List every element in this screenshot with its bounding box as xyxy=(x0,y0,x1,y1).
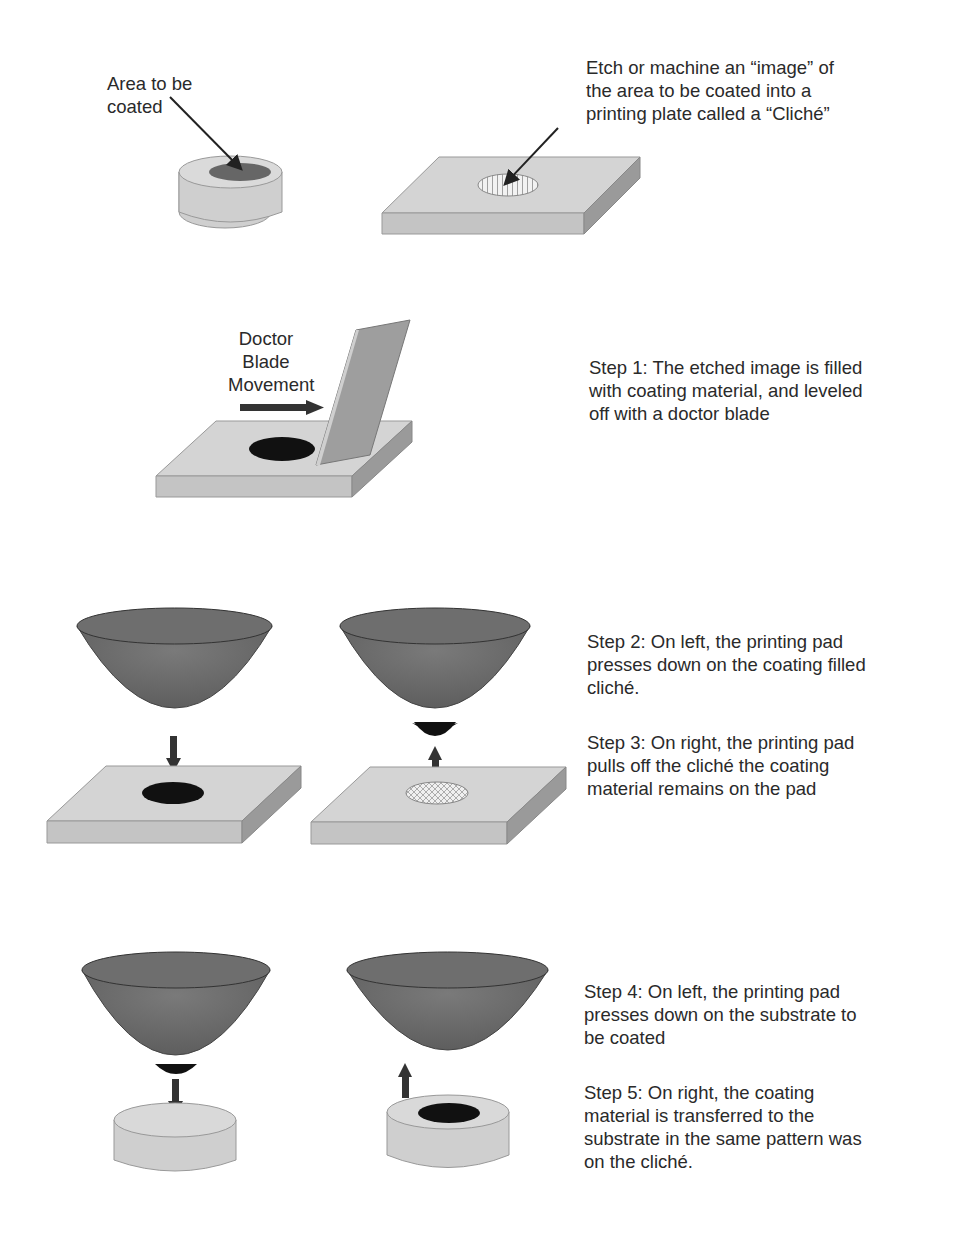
coating-fill xyxy=(142,782,204,804)
label-etch-caption: Etch or machine an “image” of the area t… xyxy=(586,56,834,125)
empty-image xyxy=(406,782,468,804)
substrate-disk-uncoated xyxy=(179,156,282,228)
step-3-text: Step 3: On right, the printing pad pulls… xyxy=(587,731,854,800)
cliche-plate-etched xyxy=(382,157,640,234)
printing-pad-step3 xyxy=(340,608,530,736)
etched-image xyxy=(478,174,538,196)
step-4-text: Step 4: On left, the printing pad presse… xyxy=(584,980,857,1049)
step-2-text: Step 2: On left, the printing pad presse… xyxy=(587,630,866,699)
pad-printing-diagram xyxy=(0,0,962,1237)
printing-pad-step2 xyxy=(77,608,272,708)
label-doctor-blade: Doctor Blade Movement xyxy=(228,327,304,396)
step-5-text: Step 5: On right, the coating material i… xyxy=(584,1081,862,1173)
pad-coating xyxy=(414,722,456,736)
transferred-coating xyxy=(418,1103,480,1123)
substrate-disk-coated xyxy=(387,1095,509,1168)
printing-pad-step4 xyxy=(82,952,270,1074)
printing-pad-step5 xyxy=(347,952,548,1050)
blade-movement-arrow xyxy=(240,400,324,415)
coating-area xyxy=(209,163,271,181)
up-arrow xyxy=(398,1063,412,1098)
cliche-plate-step2 xyxy=(47,766,301,843)
label-area-to-be-coated: Area to be coated xyxy=(107,72,192,118)
pad-coating xyxy=(155,1064,197,1074)
substrate-disk-step4 xyxy=(114,1103,236,1171)
cliche-plate-step3 xyxy=(311,767,566,844)
step-1-text: Step 1: The etched image is filled with … xyxy=(589,356,863,425)
coating-fill xyxy=(249,437,315,461)
